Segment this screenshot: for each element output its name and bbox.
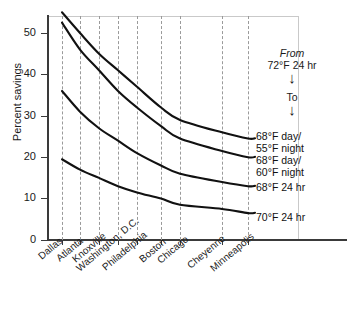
series-label-2: 68°F 24 hr bbox=[256, 181, 305, 193]
gridline-boston bbox=[161, 16, 162, 240]
annotation-from-label: From bbox=[256, 47, 328, 59]
gridline-knoxville bbox=[99, 16, 100, 240]
series-label-1-line2: 60°F night bbox=[256, 166, 304, 178]
y-tick-20 bbox=[41, 157, 48, 158]
y-tick-10 bbox=[41, 198, 48, 199]
gridline-washington bbox=[118, 16, 119, 240]
y-tick-30 bbox=[41, 116, 48, 117]
series-label-0-line2: 55°F night bbox=[256, 142, 304, 154]
arrow-down-icon-2: ↓ bbox=[256, 104, 328, 116]
arrow-down-icon-1: ↓ bbox=[256, 72, 328, 84]
y-tick-label-0: 0 bbox=[14, 234, 36, 245]
y-tick-0 bbox=[41, 240, 48, 241]
chart-root: 0 10 20 30 40 50 Percent savings Dallas … bbox=[0, 0, 357, 329]
gridline-cheyenne bbox=[222, 16, 223, 240]
gridline-minneapolis bbox=[248, 16, 249, 240]
series-label-1-line1: 68°F day/ bbox=[256, 154, 301, 166]
y-axis-title: Percent savings bbox=[11, 37, 23, 167]
gridline-chicago bbox=[180, 16, 181, 240]
series-label-0-line1: 68°F day/ bbox=[256, 130, 301, 142]
gridline-atlanta bbox=[80, 16, 81, 240]
y-axis-line bbox=[47, 15, 49, 241]
series-label-3: 70°F 24 hr bbox=[256, 211, 305, 223]
gridline-dallas bbox=[62, 16, 63, 240]
y-tick-label-10: 10 bbox=[14, 192, 36, 203]
y-tick-50 bbox=[41, 33, 48, 34]
y-tick-40 bbox=[41, 74, 48, 75]
gridline-philadelphia bbox=[137, 16, 138, 240]
